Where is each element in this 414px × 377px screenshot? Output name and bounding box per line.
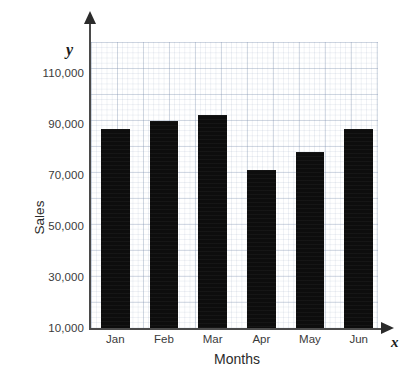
y-axis-title: Sales [32,173,47,263]
x-tick-label: Mar [188,333,237,345]
y-axis-arrow-icon [84,11,96,24]
bar [247,170,275,329]
bar [198,115,226,329]
x-tick-label: May [286,333,335,345]
x-tick-label: Feb [140,333,189,345]
y-axis-line [89,22,91,330]
x-tick-label: Jan [91,333,140,345]
x-axis-line [89,328,383,330]
y-tick-label: 90,000 [0,118,84,130]
bar-chart-figure: y x 110,00090,00070,00050,00030,00010,00… [0,0,414,377]
x-axis-title: Months [91,351,383,367]
y-tick-label: 10,000 [0,322,84,334]
x-axis-variable-label: x [391,334,399,351]
bar [101,129,129,329]
bar [296,152,324,329]
y-axis-variable-label: y [66,41,73,59]
bar [344,129,372,329]
x-axis-tick-labels: JanFebMarAprMayJun [91,333,383,351]
y-tick-label: 30,000 [0,271,84,283]
y-tick-label: 110,000 [0,67,84,79]
bar [150,121,178,329]
x-tick-label: Apr [237,333,286,345]
x-tick-label: Jun [334,333,383,345]
bars-layer [91,42,383,329]
